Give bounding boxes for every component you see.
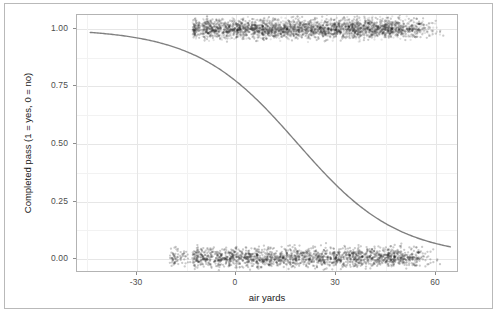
x-tick-label: 30 bbox=[315, 277, 355, 287]
y-tick-label: 1.00 bbox=[34, 23, 68, 33]
y-tick-label: 0.25 bbox=[34, 196, 68, 206]
chart-plot-area: Completed pass (1 = yes, 0 = no) air yar… bbox=[0, 0, 499, 316]
x-tick-label: -30 bbox=[116, 277, 156, 287]
plot-panel bbox=[76, 14, 458, 272]
y-tick-label: 0.50 bbox=[34, 138, 68, 148]
y-axis-title: Completed pass (1 = yes, 0 = no) bbox=[22, 14, 33, 272]
x-tick-mark bbox=[335, 272, 336, 275]
y-tick-label: 0.75 bbox=[34, 80, 68, 90]
logistic-curve-layer bbox=[77, 15, 457, 271]
x-tick-mark bbox=[136, 272, 137, 275]
x-tick-label: 60 bbox=[415, 277, 455, 287]
y-tick-label: 0.00 bbox=[34, 253, 68, 263]
x-tick-mark bbox=[435, 272, 436, 275]
logistic-fit-line bbox=[90, 32, 450, 246]
x-tick-mark bbox=[235, 272, 236, 275]
x-tick-label: 0 bbox=[215, 277, 255, 287]
x-axis-title: air yards bbox=[76, 292, 458, 303]
